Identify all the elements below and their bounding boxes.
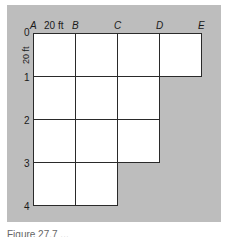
grid-cell-d0 xyxy=(159,33,202,77)
figure-caption: Figure 27.7 ... xyxy=(7,229,69,237)
column-label-a: A xyxy=(30,21,37,31)
grid-cell-c2 xyxy=(117,119,160,163)
grid-cell-a3 xyxy=(33,162,76,206)
horizontal-dimension-label: 20 ft xyxy=(44,21,63,31)
vertical-dimension-label: 20 ft xyxy=(21,46,31,64)
grid-cell-a0 xyxy=(33,33,76,77)
grid-cell-a2 xyxy=(33,119,76,163)
grid-cell-b2 xyxy=(75,119,118,163)
grid-cell-b1 xyxy=(75,76,118,120)
column-label-b: B xyxy=(72,21,79,31)
grid-cell-b3 xyxy=(75,162,118,206)
row-label-4: 4 xyxy=(24,202,30,212)
row-label-3: 3 xyxy=(24,159,30,169)
grid-cell-c1 xyxy=(117,76,160,120)
column-label-c: C xyxy=(114,21,121,31)
grid-cell-a1 xyxy=(33,76,76,120)
row-label-1: 1 xyxy=(24,73,30,83)
column-label-d: D xyxy=(156,21,163,31)
column-label-e: E xyxy=(198,21,205,31)
row-label-2: 2 xyxy=(24,116,30,126)
grid-cell-b0 xyxy=(75,33,118,77)
row-label-0: 0 xyxy=(24,28,30,38)
grid-cell-c0 xyxy=(117,33,160,77)
